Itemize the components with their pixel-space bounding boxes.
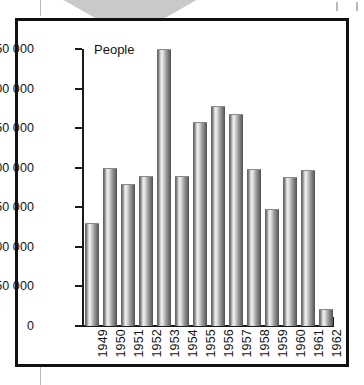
y-axis-tick (75, 285, 82, 287)
y-axis-tick-label: 350 000 (0, 42, 34, 56)
x-axis-tick-label: 1957 (240, 329, 254, 358)
y-axis-tick-label: 150 000 (0, 200, 34, 214)
y-axis-tick (75, 127, 82, 129)
x-axis-tick-label: 1954 (186, 329, 200, 358)
y-axis-tick (75, 167, 82, 169)
corner-tick-icon (356, 2, 358, 11)
y-axis-tick-label: 250 000 (0, 121, 34, 135)
y-axis-tick (75, 88, 82, 90)
x-axis-tick-label: 1961 (312, 329, 326, 358)
bar (229, 114, 243, 326)
bar (103, 168, 117, 326)
bar (247, 169, 261, 326)
bar (85, 223, 99, 326)
y-axis-tick (75, 48, 82, 50)
bar (139, 176, 153, 326)
bar (301, 170, 315, 326)
x-axis-tick-label: 1956 (222, 329, 236, 358)
bar (157, 49, 171, 326)
bar (283, 177, 297, 326)
y-axis-tick (75, 206, 82, 208)
bar (121, 184, 135, 326)
x-axis-tick-label: 1949 (96, 329, 110, 358)
x-axis-tick-label: 1958 (258, 329, 272, 358)
x-axis-tick-label: 1960 (294, 329, 308, 358)
x-axis-tick-label: 1959 (276, 329, 290, 358)
bar (319, 309, 333, 326)
y-axis-tick-label: 300 000 (0, 82, 34, 96)
y-axis-tick-label: 50 000 (0, 279, 34, 293)
margin-rule-top (40, 0, 41, 16)
bars-layer (82, 49, 334, 326)
x-axis-tick-label: 1950 (114, 329, 128, 358)
y-axis-tick (75, 246, 82, 248)
y-axis-tick (75, 325, 82, 327)
bar (211, 106, 225, 326)
bar (265, 209, 279, 326)
bar (175, 176, 189, 326)
x-axis-tick-label: 1955 (204, 329, 218, 358)
x-axis-labels: 1949195019511952195319541955195619571958… (82, 329, 334, 369)
bar (193, 122, 207, 326)
y-axis-tick-label: 100 000 (0, 240, 34, 254)
chart-frame: People 050 000100 000150 000200 000250 0… (15, 18, 349, 367)
x-axis-tick-label: 1952 (150, 329, 164, 358)
x-axis-tick-label: 1953 (168, 329, 182, 358)
corner-tick-icon (336, 2, 338, 11)
y-axis-tick-label: 0 (27, 319, 34, 333)
bar-chart: People 050 000100 000150 000200 000250 0… (18, 21, 346, 364)
x-axis-tick-label: 1962 (330, 329, 344, 358)
x-axis-tick-label: 1951 (132, 329, 146, 358)
y-axis-tick-label: 200 000 (0, 161, 34, 175)
